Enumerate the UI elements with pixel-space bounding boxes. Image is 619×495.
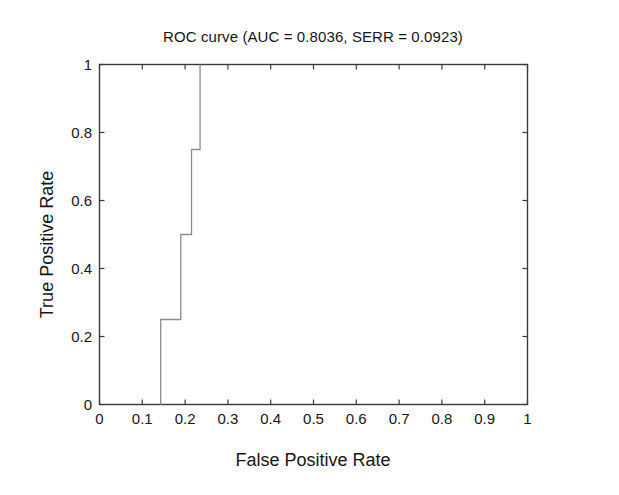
x-tick-label: 0.5 (294, 410, 334, 427)
x-tick-label: 0.4 (251, 410, 291, 427)
y-axis-label: True Positive Rate (37, 115, 58, 375)
y-axis-ticks (100, 65, 528, 405)
y-tick-label: 1 (50, 56, 92, 72)
x-tick-label: 0.6 (336, 410, 376, 427)
x-axis-label: False Positive Rate (99, 450, 527, 471)
axes-frame (100, 65, 528, 405)
x-tick-label: 1 (508, 410, 548, 427)
roc-curve-figure: ROC curve (AUC = 0.8036, SERR = 0.0923) … (0, 0, 619, 495)
x-tick-label: 0.1 (122, 410, 162, 427)
roc-curve-line (161, 65, 200, 405)
y-tick-label: 0 (50, 396, 92, 412)
x-axis-ticks (100, 65, 528, 405)
x-tick-label: 0.7 (379, 410, 419, 427)
x-tick-label: 0.9 (465, 410, 505, 427)
x-tick-label: 0.3 (208, 410, 248, 427)
x-tick-label: 0.8 (422, 410, 462, 427)
x-tick-label: 0.2 (165, 410, 205, 427)
